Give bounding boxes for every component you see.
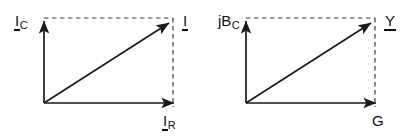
horizontal-axis-label: G	[372, 113, 384, 128]
current-phasor-diagram: IC I IR	[0, 0, 206, 139]
horizontal-axis-symbol: I	[163, 113, 167, 128]
figure-canvas: IC I IR jBC Y G	[0, 0, 412, 139]
vertical-axis-symbol: I	[15, 13, 19, 28]
resultant-symbol: Y	[385, 13, 395, 28]
vertical-axis-subscript: C	[232, 19, 240, 31]
resultant-label: Y	[385, 13, 395, 28]
horizontal-axis-label: IR	[163, 113, 175, 128]
vertical-axis-label: jBC	[218, 13, 239, 28]
resultant-vector-arrow	[246, 23, 371, 103]
resultant-vector-arrow	[44, 23, 169, 103]
horizontal-axis-symbol: G	[372, 113, 384, 128]
resultant-symbol: I	[183, 13, 187, 28]
vertical-axis-subscript: C	[20, 19, 28, 31]
horizontal-axis-subscript: R	[168, 119, 176, 131]
admittance-phasor-diagram: jBC Y G	[206, 0, 412, 139]
resultant-label: I	[183, 13, 187, 28]
vertical-axis-symbol: jB	[218, 13, 231, 28]
vertical-axis-label: IC	[15, 13, 27, 28]
